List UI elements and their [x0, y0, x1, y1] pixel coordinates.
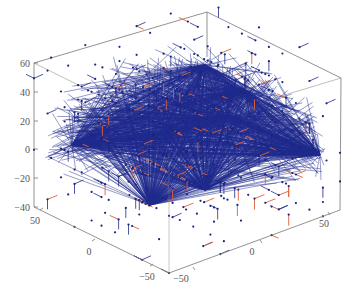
y-axis: 500−50 — [30, 208, 155, 282]
z-tick-label: 40 — [20, 87, 30, 98]
x-tick-label: 50 — [319, 218, 329, 229]
y-tick-label: 0 — [87, 246, 92, 257]
x-tick-label: −50 — [173, 273, 189, 284]
z-tick-label: 20 — [20, 116, 30, 127]
y-tick-label: −50 — [139, 271, 155, 282]
network-3d-plot: −40−200204060 500−50 −50050 — [0, 0, 350, 291]
z-axis: −40−200204060 — [14, 58, 38, 213]
x-axis: −50050 — [173, 212, 330, 284]
x-tick-label: 0 — [250, 246, 255, 257]
z-tick-label: −20 — [14, 173, 30, 184]
z-tick-label: 0 — [25, 144, 30, 155]
z-tick-label: −40 — [14, 202, 30, 213]
z-tick-label: 60 — [20, 58, 30, 69]
y-tick-label: 50 — [30, 215, 40, 226]
